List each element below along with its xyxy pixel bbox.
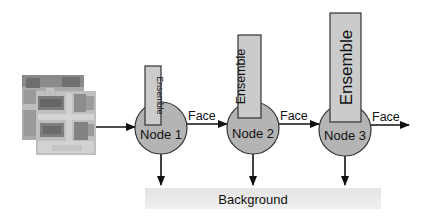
node-2: Ensemble Node 2 [227,35,279,154]
edge-label-face: Face [280,109,308,123]
edge-label-face: Face [188,109,216,123]
node-1: Ensemble Node 1 [135,66,187,154]
node-label-1: Node 1 [140,127,182,142]
input-image-front [36,91,96,155]
background-bar: Background [145,188,381,209]
edge-node2-node3: Face [279,109,319,124]
background-label: Background [218,192,287,207]
cascade-diagram: Background Face Face Face Ensemble Node … [0,0,433,223]
edge-label-face: Face [372,110,400,124]
ensemble-label-1: Ensemble [155,77,165,115]
ensemble-label-3: Ensemble [337,30,356,106]
edge-node3-output: Face [371,110,409,125]
edge-node1-node2: Face [187,109,227,124]
node-label-3: Node 3 [324,128,366,143]
input-image-stack [22,75,96,155]
node-3: Ensemble Node 3 [319,13,371,156]
node-label-2: Node 2 [232,126,274,141]
ensemble-label-2: Ensemble [234,49,248,105]
